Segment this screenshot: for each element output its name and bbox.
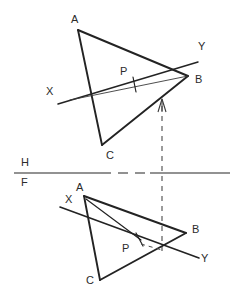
front-view-vertex-label-a: A: [76, 182, 83, 193]
front-view-trace-label-y: Y: [201, 253, 208, 264]
vertical-projector-group: [158, 99, 166, 251]
top-view-trace-label-x: X: [46, 86, 53, 97]
drawing-sheet: A B C P X Y H F A B C P X Y: [0, 0, 245, 307]
front-view-triangle-edge-bc: [100, 233, 186, 280]
top-view-vertex-label-b: B: [195, 74, 202, 85]
top-view-vertex-label-a: A: [71, 14, 78, 25]
front-view-group: [60, 196, 199, 280]
front-view-trace-line-xy: [60, 207, 199, 258]
front-view-triangle-edge-ca: [84, 196, 100, 280]
top-view-p-tick-icon: [133, 77, 136, 92]
top-view-group: [58, 30, 198, 145]
front-view-trace-label-x: X: [65, 194, 72, 205]
front-view-vertex-label-b: B: [192, 224, 199, 235]
front-view-vertex-label-c: C: [86, 275, 94, 286]
reference-line-label-h: H: [21, 157, 29, 168]
top-view-triangle-edge-ca: [78, 30, 102, 145]
reference-line-label-f: F: [21, 177, 28, 188]
top-view-vertex-label-c: C: [106, 150, 114, 161]
top-view-trace-label-y: Y: [198, 41, 205, 52]
top-view-triangle-edge-ab: [78, 30, 188, 76]
top-view-trace-line-xy: [58, 62, 198, 104]
front-view-point-label-p: P: [122, 243, 129, 254]
front-view-triangle-edge-ab: [84, 196, 186, 233]
top-view-point-label-p: P: [120, 66, 127, 77]
